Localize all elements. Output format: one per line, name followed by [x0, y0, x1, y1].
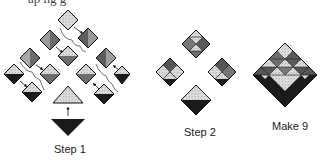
step1-split-square-horizontal	[58, 46, 78, 66]
step1-light-square	[58, 10, 78, 30]
make9-block	[253, 43, 317, 107]
step2-top-unit	[182, 30, 210, 58]
step1-split-square-vertical	[40, 30, 60, 50]
step2-label: Step 2	[184, 126, 216, 138]
arrow	[36, 65, 42, 69]
arrow	[20, 81, 26, 86]
step2-bottom-unit	[181, 85, 211, 115]
step2-group	[156, 30, 236, 115]
step1-large-light-triangle	[53, 86, 83, 103]
step1-split-square-vertical	[20, 48, 40, 68]
step1-light-black-square	[114, 66, 130, 84]
step1-light-black-square	[4, 64, 24, 84]
step1-split-square-vertical	[78, 28, 98, 48]
arrow	[56, 47, 62, 52]
step2-left-unit	[156, 58, 184, 86]
step1-split-square-horizontal	[40, 64, 60, 84]
quilt-assembly-diagram	[0, 0, 329, 161]
step1-group	[4, 10, 130, 136]
step1-split-square-vertical	[96, 48, 116, 68]
step1-label: Step 1	[54, 143, 86, 155]
make9-label: Make 9	[272, 120, 308, 132]
step1-large-black-triangle	[51, 119, 85, 136]
arrow	[74, 27, 82, 33]
step2-right-unit	[208, 58, 236, 86]
step1-split-square-horizontal	[76, 64, 96, 84]
